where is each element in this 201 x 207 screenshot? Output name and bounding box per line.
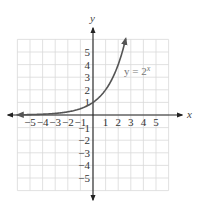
y-tick-label: 3: [85, 71, 91, 83]
y-tick-label: −1: [78, 122, 90, 134]
equation-base: y = 2: [124, 65, 147, 77]
x-tick-label: 5: [153, 116, 159, 128]
y-axis-label: y: [89, 12, 95, 24]
y-tick-label: 2: [85, 84, 91, 96]
y-tick-label: −3: [78, 147, 90, 159]
curve-y-equals-2-to-x: [17, 39, 125, 115]
x-tick-label: 4: [141, 116, 147, 128]
x-axis-label: x: [186, 108, 192, 120]
y-tick-label: 5: [85, 46, 91, 58]
exponential-graph: −5−4−3−2−112345−5−4−3−2−112345 x y y = 2…: [0, 0, 201, 207]
x-tick-label: −5: [24, 116, 36, 128]
x-tick-label: 1: [103, 116, 109, 128]
x-tick-label: 3: [128, 116, 134, 128]
equation-exponent: x: [146, 64, 151, 73]
y-tick-label: −5: [78, 172, 90, 184]
x-tick-label: 2: [115, 116, 121, 128]
y-tick-label: 4: [85, 59, 91, 71]
y-tick-label: −4: [78, 159, 90, 171]
equation-label: y = 2x: [124, 64, 151, 77]
x-tick-label: −3: [49, 116, 61, 128]
x-tick-label: −4: [37, 116, 49, 128]
y-tick-label: −2: [78, 134, 90, 146]
x-tick-label: −2: [62, 116, 74, 128]
